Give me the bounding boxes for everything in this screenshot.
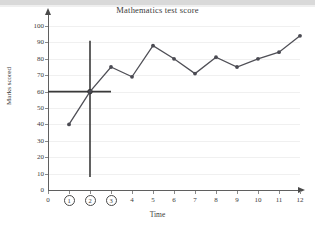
data-point: [151, 44, 155, 48]
series-line: [69, 36, 300, 125]
data-point: [109, 65, 113, 69]
data-point: [130, 75, 134, 79]
data-point: [88, 90, 92, 94]
data-point: [214, 55, 218, 59]
data-point: [298, 34, 302, 38]
series-canvas: [0, 0, 315, 226]
data-point: [277, 50, 281, 54]
chart-screenshot: Mathematics test score Marks scored Time…: [0, 0, 315, 226]
data-point: [256, 57, 260, 61]
data-point: [172, 57, 176, 61]
data-point: [67, 123, 71, 127]
series-markers: [67, 34, 302, 126]
line-chart: Mathematics test score Marks scored Time…: [0, 0, 315, 226]
plot-area: 100 90 80 70 60 50 40 30 20 10 0: [0, 0, 315, 226]
data-point: [193, 72, 197, 76]
data-point: [235, 65, 239, 69]
